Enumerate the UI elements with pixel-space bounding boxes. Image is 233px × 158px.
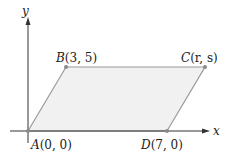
x-axis-arrow-icon bbox=[202, 129, 210, 134]
point-B bbox=[64, 65, 68, 69]
y-axis-label: y bbox=[21, 4, 29, 18]
parallelogram-diagram: x y B(3, 5) C(r, s) A(0, 0) D(7, 0) bbox=[0, 0, 233, 158]
label-D: D(7, 0) bbox=[140, 138, 183, 152]
label-C: C(r, s) bbox=[181, 51, 218, 65]
parallelogram-shape bbox=[28, 67, 205, 131]
point-C bbox=[203, 65, 207, 69]
y-axis-arrow-icon bbox=[26, 17, 31, 25]
point-A bbox=[26, 129, 30, 133]
label-A: A(0, 0) bbox=[30, 138, 72, 152]
x-axis-label: x bbox=[213, 124, 220, 138]
label-B: B(3, 5) bbox=[55, 51, 97, 65]
point-D bbox=[165, 129, 169, 133]
